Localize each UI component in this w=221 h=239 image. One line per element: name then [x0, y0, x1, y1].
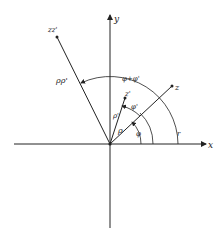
rho-prime-label: ρ'	[112, 112, 119, 120]
z-prime-label: z'	[124, 90, 131, 98]
zz-prime-label: zz'	[47, 26, 57, 34]
arc-phi-sum	[81, 77, 178, 144]
rho-label: ρ	[117, 126, 123, 135]
phi-label: φ	[136, 130, 141, 138]
rho-rho-prime-label: ρρ'	[55, 76, 68, 85]
z-label: z	[174, 83, 180, 92]
origin-dot	[108, 142, 111, 145]
x-axis-label: x	[208, 140, 213, 150]
complex-multiplication-diagram: y x z z' zz' ρρ' φ+φ' φ' ρ' ρ φ r	[0, 0, 221, 239]
vector-z-endpoint	[171, 85, 174, 88]
r-label: r	[177, 130, 181, 138]
vector-zz-prime-endpoint	[56, 36, 59, 39]
y-axis-label: y	[113, 14, 120, 24]
phi-sum-label: φ+φ'	[122, 75, 140, 83]
phi-prime-label: φ'	[131, 103, 138, 111]
arc-r	[140, 113, 153, 144]
vector-zz-prime	[57, 37, 110, 144]
